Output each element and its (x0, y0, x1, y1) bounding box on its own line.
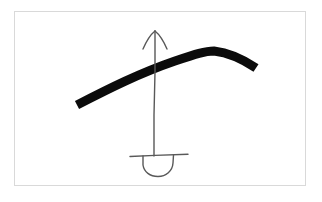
thick-arc-path (77, 51, 256, 105)
sketch-drawing (0, 0, 322, 202)
arrow-head-left-barb-path (143, 31, 155, 49)
arrow-head-right-barb-path (155, 31, 167, 49)
horizontal-bar-path (130, 154, 188, 156)
bowl-arc-path (143, 155, 174, 177)
arrow-shaft-path (154, 31, 155, 156)
sketch-canvas: Hand-drawn arc with upward arrow and bow… (0, 0, 322, 202)
